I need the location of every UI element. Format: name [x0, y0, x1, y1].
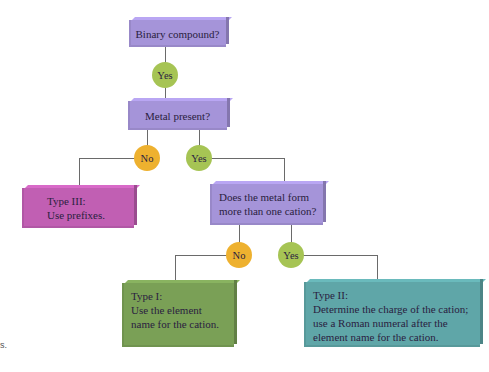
binary-compound-node: Binary compound? — [129, 20, 226, 47]
yes-label: Yes — [191, 153, 206, 164]
yes-label: Yes — [157, 70, 172, 81]
yes-circle-binary: Yes — [152, 62, 178, 88]
metal-present-label: Metal present? — [145, 109, 210, 123]
type-ii-text-2: use a Roman numeral after the — [313, 316, 480, 330]
cation-question-line2: more than one cation? — [219, 204, 323, 218]
no-circle-cation: No — [226, 242, 252, 268]
connector-line — [284, 158, 285, 183]
type-iii-text: Use prefixes. — [47, 208, 134, 222]
margin-text-fragment: s. — [0, 340, 7, 350]
type-ii-title: Type II: — [313, 288, 480, 302]
type-i-title: Type I: — [131, 289, 234, 303]
connector-line — [377, 255, 378, 281]
no-label: No — [141, 153, 154, 164]
no-label: No — [233, 250, 246, 261]
type-iii-node: Type III: Use prefixes. — [22, 188, 134, 228]
type-ii-node: Type II: Determine the charge of the cat… — [304, 282, 480, 347]
cation-question-line1: Does the metal form — [219, 190, 323, 204]
cation-question-node: Does the metal form more than one cation… — [210, 184, 323, 225]
type-iii-title: Type III: — [47, 194, 134, 208]
type-i-text-1: Use the element — [131, 303, 234, 317]
type-i-text-2: name for the cation. — [131, 317, 234, 331]
yes-circle-metal: Yes — [186, 145, 212, 171]
type-ii-text-3: element name for the cation. — [313, 330, 480, 344]
yes-label: Yes — [283, 250, 298, 261]
binary-compound-label: Binary compound? — [135, 27, 219, 41]
type-i-node: Type I: Use the element name for the cat… — [122, 283, 234, 347]
type-ii-text-1: Determine the charge of the cation; — [313, 302, 480, 316]
connector-line — [175, 255, 176, 282]
connector-line — [79, 158, 80, 187]
no-circle-metal: No — [134, 145, 160, 171]
metal-present-node: Metal present? — [128, 101, 227, 130]
yes-circle-cation: Yes — [278, 242, 304, 268]
